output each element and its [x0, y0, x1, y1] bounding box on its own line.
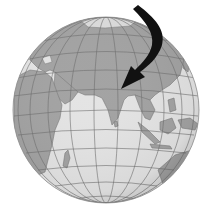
- globe-map: [0, 0, 213, 222]
- globe-figure: [0, 0, 213, 222]
- globe-shading: [13, 17, 199, 203]
